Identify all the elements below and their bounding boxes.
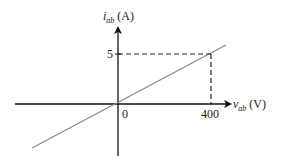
data-line [32, 45, 226, 148]
x-tick-label-0: 0 [122, 107, 128, 121]
x-tick-label-400: 400 [201, 107, 219, 121]
y-axis-label: iab(A) [103, 9, 134, 25]
x-axis-label: vab(V) [233, 97, 266, 113]
iv-characteristic-chart: 5 0 400 iab(A) vab(V) [0, 0, 284, 164]
y-tick-label-5: 5 [107, 47, 113, 61]
